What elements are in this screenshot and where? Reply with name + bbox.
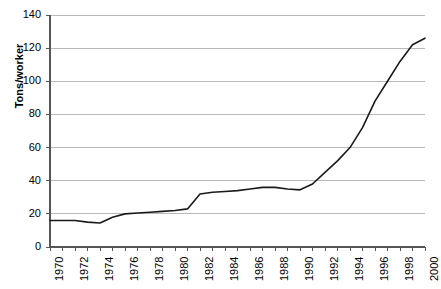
y-tick-label: 140 — [11, 9, 41, 20]
x-tick-label: 1988 — [279, 257, 290, 281]
x-tick-label: 1998 — [404, 257, 415, 281]
x-tick-label: 1986 — [254, 257, 265, 281]
x-tick-label: 1992 — [329, 257, 340, 281]
x-tick-label: 2000 — [429, 257, 440, 281]
x-tick-label: 1990 — [304, 257, 315, 281]
data-series-group — [50, 38, 425, 223]
x-tick-label: 1994 — [354, 257, 365, 281]
y-tick-label: 0 — [11, 241, 41, 252]
y-tick-label: 20 — [11, 208, 41, 219]
plot-area — [0, 0, 441, 289]
x-tick-label: 1970 — [54, 257, 65, 281]
x-tick-label: 1996 — [379, 257, 390, 281]
chart-container: Tons/worker 020406080100120140 197019721… — [0, 0, 441, 289]
x-tick-label: 1984 — [229, 257, 240, 281]
y-tick-label: 60 — [11, 142, 41, 153]
x-tick-label: 1982 — [204, 257, 215, 281]
x-tick-label: 1972 — [79, 257, 90, 281]
x-tick-label: 1976 — [129, 257, 140, 281]
x-tick-label: 1980 — [179, 257, 190, 281]
x-tick-label: 1978 — [154, 257, 165, 281]
data-line — [50, 38, 425, 223]
gridlines — [50, 15, 425, 247]
tick-marks — [46, 15, 425, 251]
y-tick-label: 120 — [11, 42, 41, 53]
x-tick-label: 1974 — [104, 257, 115, 281]
y-tick-label: 40 — [11, 175, 41, 186]
y-tick-label: 80 — [11, 108, 41, 119]
y-tick-label: 100 — [11, 75, 41, 86]
axis-lines — [50, 15, 425, 247]
